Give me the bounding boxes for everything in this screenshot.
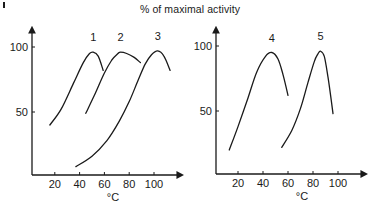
left-curves: 123 (50, 30, 170, 167)
x-tick-label: 40 (257, 177, 269, 189)
x-tick-label: 80 (307, 177, 319, 189)
x-tick-label: 100 (329, 177, 347, 189)
curve-label-4: 4 (269, 32, 275, 44)
right-x-unit: °C (296, 190, 308, 202)
chart-canvas: 50100 20406080100 123 °C 50100 204060801… (0, 0, 380, 207)
curve-4 (229, 52, 288, 150)
right-chart: 50100 20406080100 45 °C (194, 30, 362, 202)
curve-1 (50, 52, 103, 125)
y-tick-label: 100 (194, 40, 212, 52)
x-tick-label: 80 (123, 178, 135, 190)
curve-label-1: 1 (90, 31, 96, 43)
curve-label-2: 2 (117, 31, 123, 43)
left-y-ticks: 50100 (10, 41, 35, 118)
y-tick-label: 100 (10, 41, 28, 53)
right-curves: 45 (229, 30, 333, 150)
curve-3 (76, 51, 170, 167)
curve-5 (282, 51, 333, 147)
x-tick-label: 20 (49, 178, 61, 190)
x-tick-label: 100 (145, 178, 163, 190)
x-tick-label: 60 (98, 178, 110, 190)
x-tick-label: 60 (282, 177, 294, 189)
curve-2 (86, 52, 141, 113)
x-tick-label: 20 (232, 177, 244, 189)
curve-label-5: 5 (317, 30, 323, 42)
y-tick-label: 50 (200, 105, 212, 117)
y-tick-label: 50 (16, 106, 28, 118)
x-tick-label: 40 (73, 178, 85, 190)
left-x-unit: °C (107, 191, 119, 203)
right-y-ticks: 50100 (194, 40, 219, 117)
curve-label-3: 3 (155, 30, 161, 42)
left-chart: 50100 20406080100 123 °C (10, 30, 178, 203)
